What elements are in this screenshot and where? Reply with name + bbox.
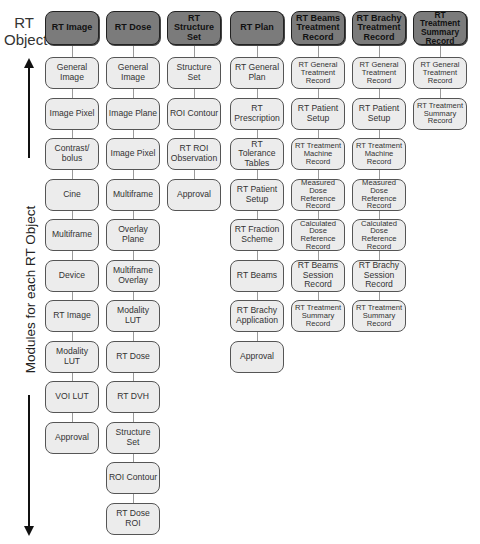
module-box: RT Treatment Summary Record <box>291 300 345 332</box>
module-box: Device <box>45 260 99 292</box>
arrow-down-icon <box>24 526 34 536</box>
rt-object-header: RT Structure Set <box>167 11 221 45</box>
module-box: General Image <box>45 57 99 89</box>
module-box: RT General Treatment Record <box>413 57 467 89</box>
module-box: RT Brachy Session Record <box>352 260 406 292</box>
module-box: RT Patient Setup <box>291 98 345 130</box>
module-box: RT DVH <box>106 381 160 413</box>
module-box: RT Beams Session Record <box>291 260 345 292</box>
module-box: RT Image <box>45 300 99 332</box>
module-box: RT ROI Observation <box>167 138 221 170</box>
module-box: Image Pixel <box>45 98 99 130</box>
module-box: General Image <box>106 57 160 89</box>
module-box: RT Brachy Application <box>230 300 284 332</box>
module-box: RT Dose <box>106 341 160 373</box>
module-box: Cine <box>45 179 99 211</box>
module-box: RT Fraction Scheme <box>230 219 284 251</box>
module-box: Image Pixel <box>106 138 160 170</box>
module-box: Contrast/ bolus <box>45 138 99 170</box>
rt-object-header: RT Dose <box>106 11 160 45</box>
module-box: RT General Treatment Record <box>352 57 406 89</box>
rt-object-label: RT Object <box>4 14 44 48</box>
rt-object-label-line2: Object <box>4 31 44 48</box>
module-box: RT Tolerance Tables <box>230 138 284 170</box>
module-box: RT Treatment Machine Record <box>352 138 406 170</box>
module-box: Modality LUT <box>106 300 160 332</box>
module-box: Approval <box>45 422 99 454</box>
module-box: RT Dose ROI <box>106 503 160 535</box>
module-box: RT General Treatment Record <box>291 57 345 89</box>
module-box: RT Treatment Summary Record <box>413 98 467 130</box>
module-box: Calculated Dose Reference Record <box>352 219 406 251</box>
module-box: Approval <box>167 179 221 211</box>
module-box: VOI LUT <box>45 381 99 413</box>
module-box: Measured Dose Reference Record <box>352 179 406 211</box>
axis-line-bottom <box>28 395 30 528</box>
rt-object-label-line1: RT <box>4 14 44 31</box>
module-box: Multiframe <box>106 179 160 211</box>
module-box: Calculated Dose Reference Record <box>291 219 345 251</box>
module-box: Overlay Plane <box>106 219 160 251</box>
module-box: Multiframe <box>45 219 99 251</box>
module-box: Image Plane <box>106 98 160 130</box>
module-box: Multiframe Overlay <box>106 260 160 292</box>
module-box: Structure Set <box>106 422 160 454</box>
module-box: ROI Contour <box>106 462 160 494</box>
rt-object-header: RT Brachy Treatment Record <box>352 11 406 45</box>
module-box: RT General Plan <box>230 57 284 89</box>
module-box: RT Treatment Summary Record <box>352 300 406 332</box>
module-box: RT Prescription <box>230 98 284 130</box>
module-box: Modality LUT <box>45 341 99 373</box>
rt-object-header: RT Treatment Summary Record <box>413 11 467 45</box>
axis-line-top <box>28 66 30 158</box>
module-box: Measured Dose Reference Record <box>291 179 345 211</box>
module-box: Structure Set <box>167 57 221 89</box>
module-box: Approval <box>230 341 284 373</box>
module-box: RT Beams <box>230 260 284 292</box>
module-box: ROI Contour <box>167 98 221 130</box>
module-box: RT Patient Setup <box>352 98 406 130</box>
rt-object-header: RT Image <box>45 11 99 45</box>
module-box: RT Patient Setup <box>230 179 284 211</box>
rt-object-header: RT Beams Treatment Record <box>291 11 345 45</box>
module-box: RT Treatment Machine Record <box>291 138 345 170</box>
rt-object-header: RT Plan <box>230 11 284 45</box>
modules-axis-label: Modules for each RT Object <box>23 185 38 395</box>
